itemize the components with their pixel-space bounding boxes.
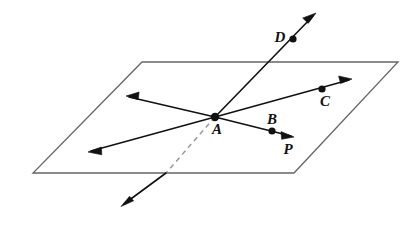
point-label-B: B [266, 111, 277, 127]
point-C-dot [318, 85, 325, 92]
line-AD-lower-segment [121, 173, 166, 207]
plane-label-P: P [283, 141, 293, 157]
line-AD-upper-segment [215, 13, 316, 117]
point-label-A: A [211, 121, 222, 137]
line-AD-hidden-segment [166, 117, 215, 173]
ray-A-lower-left [88, 117, 215, 155]
point-B-dot [268, 127, 275, 134]
arrowhead-AD-up [303, 13, 316, 23]
point-A-dot [211, 113, 219, 121]
ray-AB [215, 117, 294, 139]
arrowhead-AB [281, 132, 294, 140]
geometry-figure: A B C D P [0, 0, 409, 226]
arrowhead-AC [339, 76, 352, 84]
geometry-canvas: A B C D P [0, 0, 409, 226]
arrowhead-lower-left [88, 147, 102, 155]
point-label-C: C [320, 93, 331, 109]
point-D-dot [289, 35, 296, 42]
point-label-D: D [274, 29, 286, 45]
ray-A-upper-left [126, 92, 215, 117]
